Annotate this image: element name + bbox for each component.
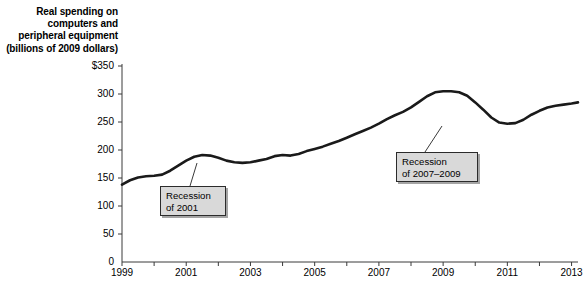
y-axis-tick-label: 150: [70, 173, 114, 183]
annotation-recession-2007-2009: Recessionof 2007–2009: [396, 152, 478, 182]
y-axis-tick-label: 0: [70, 257, 114, 267]
x-axis-tick-label: 2007: [359, 268, 399, 278]
y-axis-tick-label: $350: [70, 61, 114, 71]
chart-tick-marks: [118, 66, 572, 266]
x-axis-tick-label: 2001: [166, 268, 206, 278]
data-series-line: [122, 91, 578, 185]
x-axis-tick-label: 2005: [295, 268, 335, 278]
chart-axes: [122, 64, 578, 262]
y-axis-tick-label: 100: [70, 201, 114, 211]
x-axis-tick-label: 2013: [552, 268, 587, 278]
x-axis-tick-label: 2011: [487, 268, 527, 278]
annotation-text-line: of 2001: [166, 202, 220, 214]
annotation-text-line: Recession: [166, 190, 220, 202]
y-axis-tick-label: 300: [70, 89, 114, 99]
annotation-text-line: of 2007–2009: [402, 168, 472, 180]
annotation-text-line: Recession: [402, 156, 472, 168]
y-axis-tick-label: 250: [70, 117, 114, 127]
x-axis-tick-label: 2003: [230, 268, 270, 278]
x-axis-tick-label: 2009: [423, 268, 463, 278]
x-axis-tick-label: 1999: [102, 268, 142, 278]
annotation-recession-2001: Recessionof 2001: [160, 186, 226, 216]
y-axis-tick-label: 50: [70, 229, 114, 239]
y-axis-tick-label: 200: [70, 145, 114, 155]
